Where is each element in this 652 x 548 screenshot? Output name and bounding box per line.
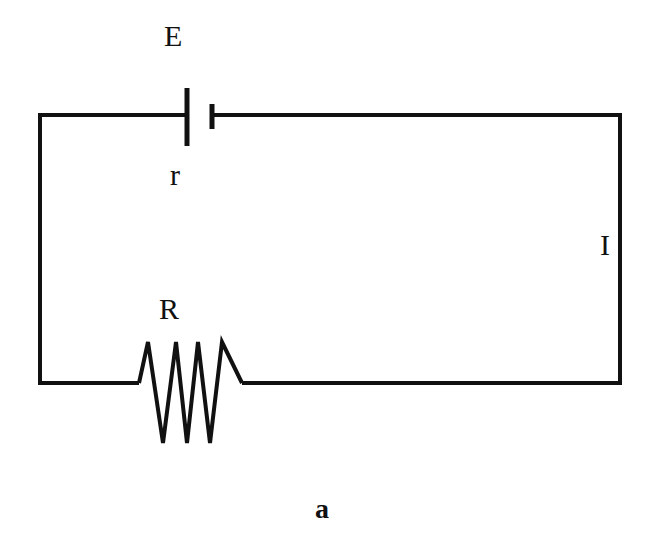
- circuit-diagram-figure: E r R I a: [0, 0, 652, 548]
- resistance-label: R: [159, 294, 179, 324]
- current-label: I: [600, 230, 610, 260]
- resistor-zigzag-icon: [139, 342, 242, 443]
- internal-resistance-label: r: [170, 160, 180, 190]
- figure-caption: a: [315, 495, 329, 523]
- circuit-schematic: [0, 0, 652, 548]
- emf-label: E: [164, 21, 183, 51]
